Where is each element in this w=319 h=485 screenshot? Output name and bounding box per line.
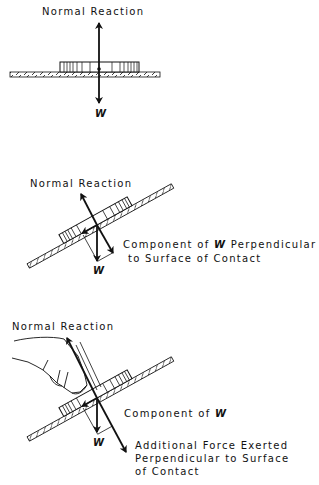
additional-force-label-line3: of Contact — [135, 466, 200, 477]
force-diagram: Normal Reaction W Normal Reaction — [0, 0, 319, 485]
hand-illustration — [12, 337, 87, 394]
figure-incline-with-finger: Normal Reaction — [12, 321, 289, 477]
weight-label: W — [95, 108, 107, 119]
flat-surface — [10, 72, 160, 77]
figure-flat: Normal Reaction W — [10, 6, 160, 119]
additional-force-label-line1: Additional Force Exerted — [135, 440, 288, 451]
additional-force-label-line2: Perpendicular to Surface — [135, 453, 289, 464]
normal-reaction-label: Normal Reaction — [12, 321, 114, 332]
figure-incline: Normal Reaction W Compone — [22, 175, 316, 292]
weight-label: W — [93, 265, 105, 276]
normal-reaction-label: Normal Reaction — [42, 6, 144, 17]
component-label: Component of W — [124, 408, 227, 419]
weight-label: W — [93, 437, 105, 448]
component-label-line1: Component of W Perpendicular — [123, 239, 316, 250]
normal-reaction-label: Normal Reaction — [30, 178, 132, 189]
perpendicular-component-arrow — [97, 225, 113, 253]
component-label-line2: to Surface of Contact — [128, 253, 262, 264]
